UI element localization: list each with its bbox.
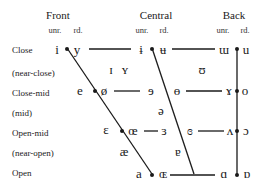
vowel-barred-o: ɵ (174, 84, 181, 97)
dot-close-mid-back (235, 89, 239, 93)
dot-open-mid-front (120, 129, 124, 133)
dot-open-back (235, 173, 239, 177)
central-unr-label: unr. (136, 26, 149, 35)
row-close: Close (12, 46, 33, 55)
dot-open-front (150, 173, 154, 177)
vowel-oe: œ (128, 124, 137, 137)
vowel-reversed-e: ɘ (148, 84, 154, 97)
vowel-a: a (136, 167, 142, 180)
ipa-vowel-chart: Front Central Back unr. rd. unr. rd. unr… (0, 0, 267, 189)
vowel-turned-v: ʌ (227, 124, 234, 137)
dot-close-back (235, 47, 239, 51)
vowel-u: u (243, 43, 250, 56)
dot-open-mid-back (235, 129, 239, 133)
vowel-schwa: ə (158, 104, 164, 117)
vowel-i: i (55, 43, 59, 56)
row-mid: (mid) (12, 109, 32, 118)
vowel-upsilon: ʊ (198, 63, 205, 76)
row-near-open: (near-open) (12, 149, 54, 158)
vowel-turned-a: ɐ (175, 145, 181, 158)
central-rd-label: rd. (159, 26, 168, 35)
dot-close-central (150, 47, 154, 51)
vowel-o-slash: ø (101, 84, 108, 97)
vowel-turned-m: ɯ (219, 43, 229, 56)
row-near-close: (near-close) (12, 69, 55, 78)
back-unr-label: unr. (217, 26, 230, 35)
vowel-o: o (242, 84, 249, 97)
header-central: Central (140, 10, 172, 21)
row-open-mid: Open-mid (12, 129, 49, 138)
vowel-e: e (77, 84, 83, 97)
row-open: Open (12, 169, 32, 178)
vowel-script-a: ɑ (221, 167, 228, 180)
header-front: Front (46, 10, 70, 21)
vowel-small-cap-y: ʏ (122, 63, 128, 76)
vowel-ash: æ (120, 145, 129, 158)
vowel-barred-u: ʉ (160, 43, 167, 56)
vowel-epsilon: ɛ (103, 123, 108, 136)
row-close-mid: Close-mid (12, 89, 50, 98)
vowel-turned-script-a: ɒ (244, 167, 251, 180)
vowel-y: y (74, 43, 81, 56)
vowel-small-cap-oe: ɶ (159, 167, 167, 180)
vowel-closed-reversed-epsilon: ɞ (187, 124, 193, 137)
vowel-small-cap-i: ɪ (109, 63, 113, 76)
vowel-reversed-epsilon: ɜ (161, 124, 166, 137)
back-rd-label: rd. (240, 26, 249, 35)
vowel-barred-i: ɨ (139, 43, 143, 56)
front-rd-label: rd. (73, 26, 82, 35)
front-unr-label: unr. (49, 26, 62, 35)
header-back: Back (223, 10, 246, 21)
vowel-open-o: ɔ (243, 124, 249, 137)
dot-close-front (65, 47, 69, 51)
dot-close-mid-front (93, 89, 97, 93)
vowel-rams-horn: ɤ (226, 84, 232, 97)
